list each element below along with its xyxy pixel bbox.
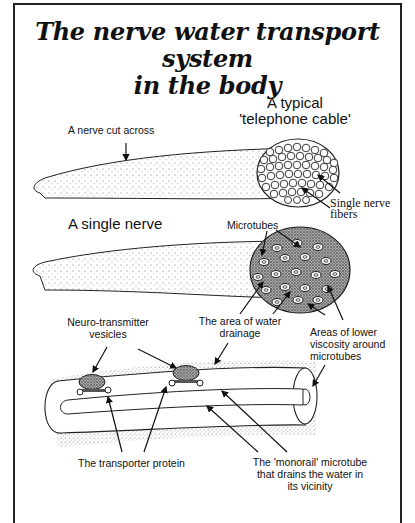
single-fibers-label-line-2: fibers [330,209,390,220]
single-nerve-heading: A single nerve [68,216,162,232]
transporter-protein-label: The transporter protein [78,457,185,469]
lower-viscosity-label-line-3: microtubes [310,350,385,362]
water-drainage-label-line-1: The area of water [180,315,300,327]
microtubes-label: Microtubes [227,219,278,231]
cable-heading-line-2: 'telephone cable' [230,111,360,127]
cable-heading: A typical 'telephone cable' [230,95,360,127]
vesicles-label-line-1: Neuro-transmitter [58,316,158,328]
diagram-artwork [0,0,415,523]
monorail-label-line-1: The 'monorail' microtube [240,456,380,468]
nerve-cut-label: A nerve cut across [68,124,154,136]
nerve-cross-section-illustration [45,343,325,452]
monorail-label-line-2: that drains the water in [240,468,380,480]
water-drainage-label-line-2: drainage [180,327,300,339]
monorail-microtube-label: The 'monorail' microtube that drains the… [240,456,380,492]
vesicles-label-line-2: vesicles [58,328,158,340]
single-nerve-illustration [33,227,350,320]
water-drainage-label: The area of water drainage [180,315,300,339]
lower-viscosity-label-line-1: Areas of lower [310,326,385,338]
cable-heading-line-1: A typical [230,95,360,111]
lower-viscosity-label: Areas of lower viscosity around microtub… [310,326,385,362]
cable-nerve-illustration [34,139,340,208]
lower-viscosity-label-line-2: viscosity around [310,338,385,350]
vesicles-label: Neuro-transmitter vesicles [58,316,158,340]
single-fibers-label: Single nerve fibers [330,198,390,220]
monorail-label-line-3: its vicinity [240,480,380,492]
